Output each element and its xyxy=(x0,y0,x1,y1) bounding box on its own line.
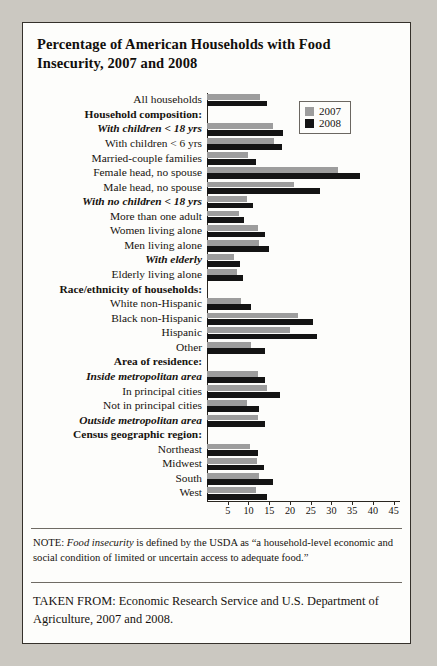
row-label: Not in principal cities xyxy=(30,400,207,411)
bar-2008 xyxy=(207,261,240,267)
chart-row: South xyxy=(207,472,400,487)
row-label: Midwest xyxy=(30,459,207,470)
bar-2007 xyxy=(207,211,239,217)
row-label: Black non-Hispanic xyxy=(30,313,207,324)
page-background: Percentage of American Households with F… xyxy=(0,0,437,666)
row-label: Outside metropolitan area xyxy=(30,415,207,426)
bar-2007 xyxy=(207,444,250,450)
chart-row: With elderly xyxy=(207,253,400,268)
row-label: In principal cities xyxy=(30,386,207,397)
row-bars xyxy=(207,413,400,428)
chart-section-header: Race/ethnicity of households: xyxy=(207,282,400,297)
page-title: Percentage of American Households with F… xyxy=(31,31,402,74)
legend-label-2008: 2008 xyxy=(319,118,341,129)
bar-2008 xyxy=(207,479,273,485)
row-bars xyxy=(207,472,400,487)
row-bars xyxy=(207,443,400,458)
row-bars xyxy=(207,166,400,181)
bar-2008 xyxy=(207,450,258,456)
chart-row: Male head, no spouse xyxy=(207,180,400,195)
chart-row: Midwest xyxy=(207,457,400,472)
chart-row: Women living alone xyxy=(207,224,400,239)
chart-section-header: Census geographic region: xyxy=(207,428,400,443)
x-tick-label: 40 xyxy=(368,505,378,516)
bar-2008 xyxy=(207,246,269,252)
chart-row: With no children < 18 yrs xyxy=(207,195,400,210)
row-label: West xyxy=(30,488,207,499)
chart-row: Other xyxy=(207,341,400,356)
row-label: Census geographic region: xyxy=(30,430,207,441)
bar-2008 xyxy=(207,421,265,427)
row-label: With children < 6 yrs xyxy=(30,138,207,149)
chart-row: Northeast xyxy=(207,443,400,458)
x-tick-label: 30 xyxy=(326,505,336,516)
chart-row: Female head, no spouse xyxy=(207,166,400,181)
row-bars xyxy=(207,268,400,283)
divider-note xyxy=(31,528,402,529)
row-bars xyxy=(207,151,400,166)
row-bars xyxy=(207,210,400,225)
row-bars xyxy=(207,137,400,152)
row-bars xyxy=(207,326,400,341)
chart-row: West xyxy=(207,486,400,501)
chart-row: With children < 6 yrs xyxy=(207,137,400,152)
row-label: All households xyxy=(30,95,207,106)
row-label: Northeast xyxy=(30,444,207,455)
legend-label-2007: 2007 xyxy=(319,106,341,117)
figure-card: Percentage of American Households with F… xyxy=(22,22,411,644)
bar-chart: All householdsHousehold composition:With… xyxy=(31,93,402,523)
chart-rows: All householdsHousehold composition:With… xyxy=(207,93,400,501)
bar-2007 xyxy=(207,254,234,260)
bar-2008 xyxy=(207,203,253,209)
note-italic-term: Food insecurity xyxy=(67,537,134,548)
bar-2008 xyxy=(207,465,264,471)
chart-row: Black non-Hispanic xyxy=(207,311,400,326)
chart-source: TAKEN FROM: Economic Research Service an… xyxy=(33,593,400,628)
bar-2007 xyxy=(207,342,251,348)
bar-2007 xyxy=(207,138,274,144)
row-label: Hispanic xyxy=(30,328,207,339)
row-label: Women living alone xyxy=(30,226,207,237)
x-tick-label: 10 xyxy=(243,505,253,516)
bar-2007 xyxy=(207,371,258,377)
bar-2008 xyxy=(207,392,280,398)
row-bars xyxy=(207,399,400,414)
bar-2007 xyxy=(207,400,247,406)
row-bars xyxy=(207,180,400,195)
row-bars xyxy=(207,311,400,326)
note-prefix: NOTE: xyxy=(33,537,67,548)
chart-row: More than one adult xyxy=(207,210,400,225)
row-label: South xyxy=(30,473,207,484)
bar-2007 xyxy=(207,94,260,100)
bar-2008 xyxy=(207,334,317,340)
x-tick-label: 20 xyxy=(285,505,295,516)
chart-row: Elderly living alone xyxy=(207,268,400,283)
x-tick-label: 5 xyxy=(225,505,230,516)
bar-2007 xyxy=(207,182,294,188)
row-bars xyxy=(207,239,400,254)
x-tick-label: 35 xyxy=(347,505,357,516)
row-label: With children < 18 yrs xyxy=(30,124,207,135)
bar-2008 xyxy=(207,348,265,354)
row-label: Inside metropolitan area xyxy=(30,371,207,382)
legend-item-2008: 2008 xyxy=(305,118,341,129)
x-axis-line xyxy=(207,501,400,502)
bar-2007 xyxy=(207,458,257,464)
bar-2007 xyxy=(207,152,248,158)
row-bars xyxy=(207,341,400,356)
row-label: Married-couple families xyxy=(30,153,207,164)
bar-2007 xyxy=(207,313,298,319)
row-label: With elderly xyxy=(30,255,207,266)
bar-2008 xyxy=(207,101,267,107)
bar-2007 xyxy=(207,487,256,493)
bar-2008 xyxy=(207,159,256,165)
row-label: With no children < 18 yrs xyxy=(30,197,207,208)
row-label: More than one adult xyxy=(30,211,207,222)
bar-2007 xyxy=(207,385,267,391)
bar-2007 xyxy=(207,269,237,275)
row-label: Other xyxy=(30,342,207,353)
chart-note: NOTE: Food insecurity is defined by the … xyxy=(33,536,400,565)
bar-2007 xyxy=(207,327,290,333)
row-label: Male head, no spouse xyxy=(30,182,207,193)
bar-2007 xyxy=(207,298,241,304)
